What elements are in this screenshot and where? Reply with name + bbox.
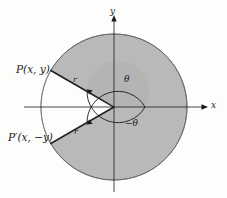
label-angle-upper: θ xyxy=(124,75,129,84)
x-axis-arrowhead xyxy=(202,104,209,109)
polar-diagram-figure: P(x, y) P′(x, −y) r r θ −θ y x xyxy=(0,0,227,198)
label-radius-upper: r xyxy=(73,76,77,84)
label-angle-lower: −θ xyxy=(125,119,138,128)
label-x-axis: x xyxy=(211,101,216,110)
label-y-axis: y xyxy=(110,7,115,16)
label-point-p: P(x, y) xyxy=(16,64,50,75)
label-point-p-reflected: P′(x, −y) xyxy=(8,132,53,143)
label-radius-lower: r xyxy=(74,128,78,136)
diagram-canvas xyxy=(0,0,227,198)
